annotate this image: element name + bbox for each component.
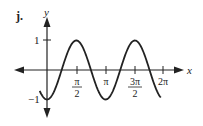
y-tick-label-neg1: −1 bbox=[28, 93, 40, 105]
x-axis-label: x bbox=[186, 64, 192, 76]
x-tick-label-3pi-over-2-den: 2 bbox=[133, 88, 138, 99]
x-axis-left-arrow-icon bbox=[14, 67, 24, 74]
x-tick-label-2pi: 2π bbox=[158, 76, 168, 87]
y-axis-up-arrow-icon bbox=[44, 17, 51, 27]
x-axis-right-arrow-icon bbox=[174, 67, 184, 74]
y-axis-down-arrow-icon bbox=[44, 108, 51, 118]
y-axis-label: y bbox=[43, 6, 49, 18]
x-tick-label-pi-over-2-den: 2 bbox=[75, 88, 80, 99]
x-tick-label-pi: π bbox=[103, 76, 108, 87]
problem-label: j. bbox=[15, 9, 23, 23]
x-tick-label-3pi-over-2-num: 3π bbox=[130, 76, 140, 87]
x-tick-label-pi-over-2-num: π bbox=[74, 76, 79, 87]
chart: j. y x 1 −1 π 2 π 3π 2 2π bbox=[0, 0, 203, 126]
y-tick-label-1: 1 bbox=[34, 34, 40, 46]
